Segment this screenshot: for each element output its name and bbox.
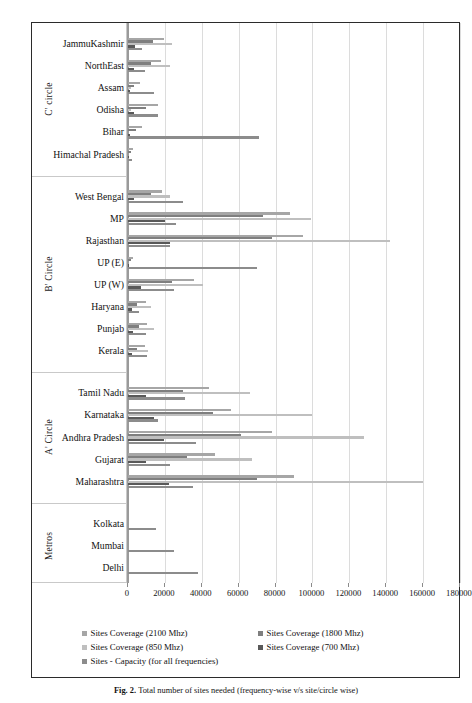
group-separator [32, 176, 127, 177]
figure-caption: Fig. 2. Total number of sites needed (fr… [36, 686, 436, 695]
x-tick-label: 80000 [264, 588, 285, 598]
x-tick [311, 583, 312, 587]
category-label: Delhi [32, 563, 124, 573]
bar [128, 419, 158, 421]
category-label: Haryana [32, 302, 124, 312]
legend-swatch [82, 631, 87, 636]
legend-swatch [258, 645, 263, 650]
legend-label: Sites Coverage (700 Mhz) [267, 642, 360, 652]
x-tick [238, 583, 239, 587]
x-tick [422, 583, 423, 587]
bar [128, 92, 154, 94]
category-label: Rajasthan [32, 236, 124, 246]
bar [128, 464, 170, 466]
bar [128, 486, 193, 488]
bar [128, 397, 185, 399]
category-label: Bihar [32, 127, 124, 137]
category-label: Tamil Nadu [32, 388, 124, 398]
x-tick [348, 583, 349, 587]
bar [128, 392, 250, 394]
bar [128, 355, 147, 357]
bar [128, 129, 136, 131]
category-label: Odisha [32, 105, 124, 115]
x-tick-label: 60000 [227, 588, 248, 598]
category-label: UP (E) [32, 258, 124, 268]
bar [128, 528, 156, 530]
bar [128, 223, 176, 225]
gridline-60000 [239, 23, 240, 583]
category-label: UP (W) [32, 280, 124, 290]
legend-label: Sites Coverage (850 Mhz) [91, 642, 184, 652]
x-tick [385, 583, 386, 587]
legend-swatch [82, 645, 87, 650]
x-tick [201, 583, 202, 587]
caption-text: Total number of sites needed (frequency-… [138, 686, 358, 695]
x-tick [459, 583, 460, 587]
x-tick [275, 583, 276, 587]
category-label: MP [32, 214, 124, 224]
gridline-20000 [165, 23, 166, 583]
category-label: Kerala [32, 346, 124, 356]
chart-legend: Sites Coverage (2100 Mhz)Sites Coverage … [82, 628, 432, 672]
category-label: Maharashtra [32, 477, 124, 487]
gridline-180000 [460, 23, 461, 583]
bar [128, 442, 196, 444]
bar [128, 458, 252, 460]
gridline-40000 [202, 23, 203, 583]
category-label: Assam [32, 83, 124, 93]
legend-label: Sites Coverage (2100 Mhz) [91, 628, 188, 638]
x-tick-label: 160000 [409, 588, 435, 598]
x-tick-label: 0 [125, 588, 129, 598]
bar [128, 550, 174, 552]
category-label: Kolkata [32, 519, 124, 529]
x-tick-label: 180000 [446, 588, 472, 598]
bar [128, 201, 183, 203]
group-label: B' Circle [32, 186, 66, 363]
caption-label: Fig. 2. [114, 686, 136, 695]
bar [128, 267, 257, 269]
category-label: Himachal Pradesh [32, 150, 124, 160]
legend-item[interactable]: Sites Coverage (1800 Mhz) [258, 628, 364, 638]
bar [128, 136, 259, 138]
gridline-100000 [312, 23, 313, 583]
x-tick [127, 583, 128, 587]
bar [128, 414, 312, 416]
gridline-140000 [386, 23, 387, 583]
legend-swatch [82, 659, 87, 664]
category-label: NorthEast [32, 61, 124, 71]
category-label: West Bengal [32, 192, 124, 202]
category-label: Punjab [32, 324, 124, 334]
bar [128, 48, 142, 50]
x-tick-label: 100000 [299, 588, 325, 598]
x-tick [164, 583, 165, 587]
legend-label: Sites Coverage (1800 Mhz) [267, 628, 364, 638]
legend-item[interactable]: Sites Coverage (850 Mhz) [82, 642, 183, 652]
x-tick-label: 40000 [190, 588, 211, 598]
bar [128, 151, 131, 153]
bars-plot-area [127, 23, 459, 583]
x-tick-label: 120000 [335, 588, 361, 598]
bar [128, 289, 174, 291]
chart-plot-region: C' circleB' CircleA' CircleMetros JammuK… [32, 23, 459, 583]
bar [128, 333, 146, 335]
category-label: JammuKashmir [32, 39, 124, 49]
legend-item[interactable]: Sites - Capacity (for all frequencies) [82, 656, 218, 666]
category-label: Gujarat [32, 455, 124, 465]
x-axis: 0200004000060000800001000001200001400001… [127, 583, 459, 605]
bar [128, 114, 158, 116]
group-separator [32, 372, 127, 373]
group-label: C' circle [32, 33, 66, 166]
gridline-80000 [276, 23, 277, 583]
bar [128, 245, 170, 247]
bar [128, 70, 145, 72]
legend-swatch [258, 631, 263, 636]
legend-item[interactable]: Sites Coverage (2100 Mhz) [82, 628, 188, 638]
legend-item[interactable]: Sites Coverage (700 Mhz) [258, 642, 359, 652]
bar [128, 311, 139, 313]
legend-label: Sites - Capacity (for all frequencies) [91, 656, 219, 666]
category-label-column: JammuKashmirNorthEastAssamOdishaBiharHim… [66, 23, 127, 583]
x-tick-label: 140000 [372, 588, 398, 598]
x-tick-label: 20000 [153, 588, 174, 598]
group-separator [32, 503, 127, 504]
